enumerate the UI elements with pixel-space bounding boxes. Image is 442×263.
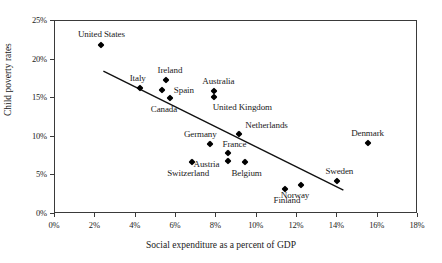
- data-point-label: Denmark: [351, 128, 384, 138]
- x-tick-label: 12%: [289, 220, 304, 230]
- scatter-chart: Child poverty rates Social expenditure a…: [0, 0, 442, 263]
- data-point-label: Ireland: [158, 65, 183, 75]
- data-point-label: France: [222, 139, 246, 149]
- x-tick-label: 2%: [89, 220, 100, 230]
- data-point-label: United States: [78, 29, 125, 39]
- y-axis-title: Child poverty rates: [3, 43, 13, 116]
- data-point-label: Spain: [174, 85, 194, 95]
- data-point-label: Germany: [184, 129, 217, 139]
- x-tick-label: 18%: [410, 220, 425, 230]
- data-point-label: Belgium: [231, 168, 261, 178]
- x-tick-label: 16%: [369, 220, 384, 230]
- y-tick-label: 20%: [32, 54, 47, 64]
- x-tick-label: 4%: [129, 220, 140, 230]
- data-point-label: Australia: [202, 76, 234, 86]
- data-point-label: Italy: [130, 73, 146, 83]
- data-point-label: Finland: [273, 195, 300, 205]
- data-point-label: Switzerland: [167, 168, 209, 178]
- y-tick-label: 5%: [36, 169, 47, 179]
- data-point-label: United Kingdom: [213, 102, 272, 112]
- x-tick-label: 14%: [329, 220, 344, 230]
- trend-line: [55, 21, 418, 214]
- data-point-label: Netherlands: [245, 120, 287, 130]
- data-point-label: Sweden: [325, 166, 353, 176]
- x-axis-title: Social expenditure as a percent of GDP: [0, 240, 442, 250]
- x-tick-label: 10%: [248, 220, 263, 230]
- data-point-label: Canada: [151, 104, 177, 114]
- x-tick-label: 0%: [49, 220, 60, 230]
- plot-area: United StatesItalyIrelandSpainCanadaAust…: [54, 20, 417, 213]
- x-tick-label: 8%: [210, 220, 221, 230]
- y-tick-label: 0%: [36, 208, 47, 218]
- y-tick-label: 15%: [32, 92, 47, 102]
- x-tick-label: 6%: [170, 220, 181, 230]
- y-tick-label: 10%: [32, 131, 47, 141]
- y-tick-label: 25%: [32, 15, 47, 25]
